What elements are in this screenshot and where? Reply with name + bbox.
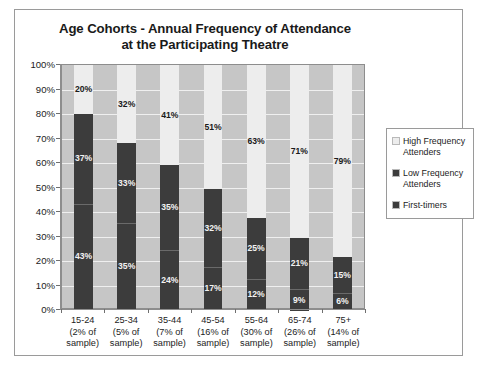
x-axis-tick [104,309,105,313]
plot-area: 20%37%43%32%33%35%41%35%24%51%32%17%63%2… [61,64,365,309]
bar-segment-label: 35% [118,262,135,271]
bar-segment[interactable]: 43% [74,204,93,309]
x-axis-label: 65-74(26% ofsample) [278,315,321,350]
x-axis-tick [235,309,236,313]
legend-swatch-icon [392,169,400,177]
bar-slot: 63%25%12% [235,65,278,308]
bar-segment[interactable]: 21% [290,238,309,289]
x-axis-label-line: 35-44 [148,315,191,327]
bar-segment-label: 25% [248,244,265,253]
bar-slot: 79%15%6% [321,65,364,308]
stacked-bar[interactable]: 51%32%17% [204,65,223,308]
stacked-bar[interactable]: 32%33%35% [117,65,136,308]
bar-segment[interactable]: 12% [247,279,266,309]
x-axis-label: 15-24(2% ofsample) [61,315,104,350]
x-axis-label-line: (7% of [148,327,191,339]
legend-item[interactable]: First-timers [392,200,469,211]
x-axis-label-line: (5% of [104,327,147,339]
bar-segment[interactable]: 24% [160,250,179,309]
x-axis-label: 35-44(7% ofsample) [148,315,191,350]
bar-segment[interactable]: 41% [160,65,179,165]
bar-segment[interactable]: 63% [247,65,266,218]
bar-segment[interactable]: 9% [290,289,309,312]
x-axis-label-line: sample) [61,338,104,350]
bar-segment[interactable]: 35% [160,165,179,250]
x-axis-label-line: (26% of [278,327,321,339]
legend-item[interactable]: High FrequencyAttenders [392,136,469,157]
bar-segment[interactable]: 15% [333,257,352,293]
x-axis-label-line: sample) [104,338,147,350]
x-axis-label-line: 55-64 [235,315,278,327]
bar-segment-label: 43% [75,252,92,261]
x-axis-tick [148,309,149,313]
bar-segment-label: 20% [75,85,92,94]
x-axis-label-line: 25-34 [104,315,147,327]
bar-segment[interactable]: 25% [247,218,266,279]
bar-segment[interactable]: 6% [333,293,352,309]
x-axis-label-line: 75+ [322,315,365,327]
x-axis-label-line: (30% of [235,327,278,339]
bar-segment[interactable]: 32% [117,65,136,143]
bar-segment-label: 41% [161,111,178,120]
x-axis-label-line: 65-74 [278,315,321,327]
bar-segment-label: 17% [204,284,221,293]
bar-segment-label: 9% [293,296,305,305]
chart-title-line-2: at the Participating Theatre [35,37,375,53]
bar-segment[interactable]: 20% [74,65,93,114]
bar-segment-label: 33% [118,179,135,188]
x-axis-label-line: sample) [191,338,234,350]
stacked-bar[interactable]: 63%25%12% [247,65,266,308]
bar-slot: 20%37%43% [62,65,105,308]
stacked-bar[interactable]: 20%37%43% [74,65,93,308]
x-axis-label: 25-34(5% ofsample) [104,315,147,350]
x-axis-tick [365,309,366,313]
bar-slot: 32%33%35% [105,65,148,308]
chart-title: Age Cohorts - Annual Frequency of Attend… [35,21,375,53]
bar-segment[interactable]: 33% [117,143,136,223]
x-axis-label-line: (16% of [191,327,234,339]
y-axis-ticks [15,64,61,309]
x-axis-label-line: (2% of [61,327,104,339]
x-axis-tick [322,309,323,313]
bar-segment-label: 63% [248,137,265,146]
bar-segment-label: 79% [334,157,351,166]
bar-segment-label: 71% [291,147,308,156]
bar-segment[interactable]: 35% [117,223,136,309]
bar-segment-label: 21% [291,259,308,268]
bar-segment[interactable]: 32% [204,189,223,267]
bar-segment-label: 24% [161,276,178,285]
stacked-bar[interactable]: 41%35%24% [160,65,179,308]
x-axis-line [60,309,366,310]
x-axis-label-line: sample) [278,338,321,350]
bar-segment[interactable]: 51% [204,65,223,189]
x-axis-label: 55-64(30% ofsample) [235,315,278,350]
bar-segment-label: 12% [248,290,265,299]
x-axis-label-line: sample) [148,338,191,350]
x-axis-tick [191,309,192,313]
x-axis-label-line: sample) [322,338,365,350]
bar-segment-label: 15% [334,271,351,280]
stacked-bar[interactable]: 71%21%9% [290,65,309,308]
legend-item[interactable]: Low FrequencyAttenders [392,168,469,189]
plot-area-wrapper: 20%37%43%32%33%35%41%35%24%51%32%17%63%2… [61,64,365,309]
legend-swatch-icon [392,201,400,209]
stacked-bar[interactable]: 79%15%6% [333,65,352,308]
legend-item-label: High FrequencyAttenders [403,136,465,157]
chart-frame: Age Cohorts - Annual Frequency of Attend… [14,9,463,356]
bar-segment-label: 51% [204,123,221,132]
bar-segment-label: 32% [118,100,135,109]
x-axis-label: 75+(14% ofsample) [322,315,365,350]
bar-group: 20%37%43%32%33%35%41%35%24%51%32%17%63%2… [62,65,364,308]
bar-segment[interactable]: 37% [74,114,93,204]
chart-title-line-1: Age Cohorts - Annual Frequency of Attend… [35,21,375,37]
bar-segment[interactable]: 79% [333,65,352,257]
bar-segment-label: 32% [204,224,221,233]
legend-swatch-icon [392,137,400,145]
legend-item-label: Low FrequencyAttenders [403,168,463,189]
legend-item-label: First-timers [403,200,447,211]
bar-segment[interactable]: 71% [290,65,309,238]
bar-slot: 71%21%9% [278,65,321,308]
bar-slot: 51%32%17% [191,65,234,308]
bar-segment[interactable]: 17% [204,267,223,309]
x-axis-label-line: (14% of [322,327,365,339]
